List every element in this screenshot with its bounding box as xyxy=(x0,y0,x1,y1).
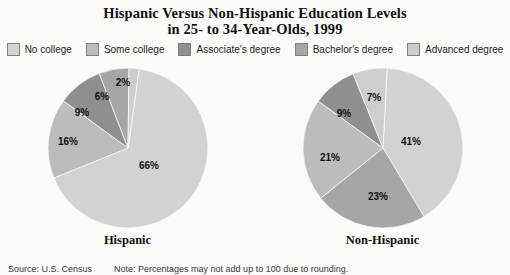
footer-note: Note: Percentages may not add up to 100 … xyxy=(114,264,348,274)
legend-item-advanced-degree[interactable]: Advanced degree xyxy=(407,43,503,56)
pie-slice-label: 21% xyxy=(319,152,339,163)
pie-slice-label: 41% xyxy=(400,136,420,147)
legend-item-associates-degree[interactable]: Associate's degree xyxy=(178,43,280,56)
pie-chart-hispanic: 66% 16% 9% 6% 2% Hispanic xyxy=(0,66,255,246)
legend-item-some-college[interactable]: Some college xyxy=(86,43,165,56)
chart-canvas: Hispanic Versus Non-Hispanic Education L… xyxy=(0,0,510,275)
pie-chart-area: 66% 16% 9% 6% 2% Hispanic 41% 23% 21% 9%… xyxy=(0,66,510,246)
pie-slice-label: 9% xyxy=(336,108,351,119)
chart-title-line-1: Hispanic Versus Non-Hispanic Education L… xyxy=(103,5,406,21)
pie-slices[interactable] xyxy=(48,68,208,228)
chart-legend: No college Some college Associate's degr… xyxy=(0,43,510,56)
legend-swatch-icon xyxy=(86,43,99,56)
pie-caption-hispanic: Hispanic xyxy=(0,233,255,248)
legend-item-label: No college xyxy=(25,44,72,55)
pie-slice-label: 9% xyxy=(74,107,89,118)
pie-svg-hispanic: 66% 16% 9% 6% 2% xyxy=(43,66,213,230)
chart-footer: Source: U.S. Census Note: Percentages ma… xyxy=(8,264,508,274)
pie-svg-non-hispanic: 41% 23% 21% 9% 7% xyxy=(298,66,468,230)
chart-title: Hispanic Versus Non-Hispanic Education L… xyxy=(0,5,510,37)
legend-item-label: Bachelor's degree xyxy=(313,44,393,55)
legend-item-label: Associate's degree xyxy=(196,44,280,55)
pie-slice-label: 2% xyxy=(115,77,130,88)
pie-slices[interactable] xyxy=(302,68,462,228)
pie-slice-label: 66% xyxy=(138,160,158,171)
legend-item-label: Advanced degree xyxy=(425,44,503,55)
pie-caption-non-hispanic: Non-Hispanic xyxy=(255,233,510,248)
pie-slice-label: 23% xyxy=(367,191,387,202)
legend-swatch-icon xyxy=(7,43,20,56)
legend-item-no-college[interactable]: No college xyxy=(7,43,72,56)
pie-chart-non-hispanic: 41% 23% 21% 9% 7% Non-Hispanic xyxy=(255,66,510,246)
pie-slice-label: 7% xyxy=(366,92,381,103)
legend-swatch-icon xyxy=(295,43,308,56)
pie-slice-label: 16% xyxy=(57,136,77,147)
legend-swatch-icon xyxy=(178,43,191,56)
legend-item-label: Some college xyxy=(104,44,165,55)
chart-title-line-2: in 25- to 34-Year-Olds, 1999 xyxy=(0,21,510,37)
legend-swatch-icon xyxy=(407,43,420,56)
pie-slice-label: 6% xyxy=(94,91,109,102)
legend-item-bachelors-degree[interactable]: Bachelor's degree xyxy=(295,43,393,56)
footer-source: Source: U.S. Census xyxy=(8,264,92,274)
